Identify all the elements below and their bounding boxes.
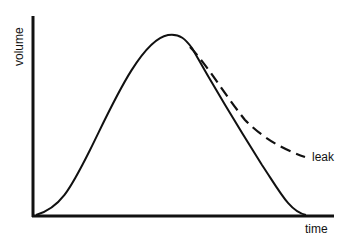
volume-time-diagram: volume time leak <box>0 0 352 241</box>
diagram-canvas <box>0 0 352 241</box>
normal-curve <box>36 35 306 215</box>
x-axis-label: time <box>305 222 328 236</box>
y-axis-label: volume <box>12 27 26 66</box>
leak-label: leak <box>312 150 334 164</box>
